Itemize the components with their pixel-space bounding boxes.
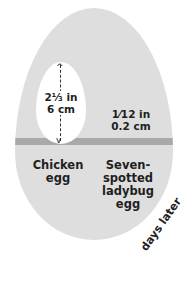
chicken-size-cm: 6 cm xyxy=(46,103,76,115)
arrow-up-icon: ^ xyxy=(56,63,64,72)
ladybug-size-in: 1⁄12 in xyxy=(101,108,161,120)
chicken-size-in: 2⅓ in xyxy=(44,91,79,103)
chicken-egg-label: Chicken egg xyxy=(28,159,88,185)
ladybug-size-cm: 0.2 cm xyxy=(101,120,161,132)
ground-band xyxy=(15,138,173,145)
chicken-egg-measurement: 2⅓ in 6 cm xyxy=(36,91,86,115)
ladybug-egg-label: Seven-spotted ladybug egg xyxy=(95,159,161,211)
arrow-down-icon: v xyxy=(56,136,61,145)
ladybug-egg-measurement: 1⁄12 in 0.2 cm xyxy=(101,108,161,132)
